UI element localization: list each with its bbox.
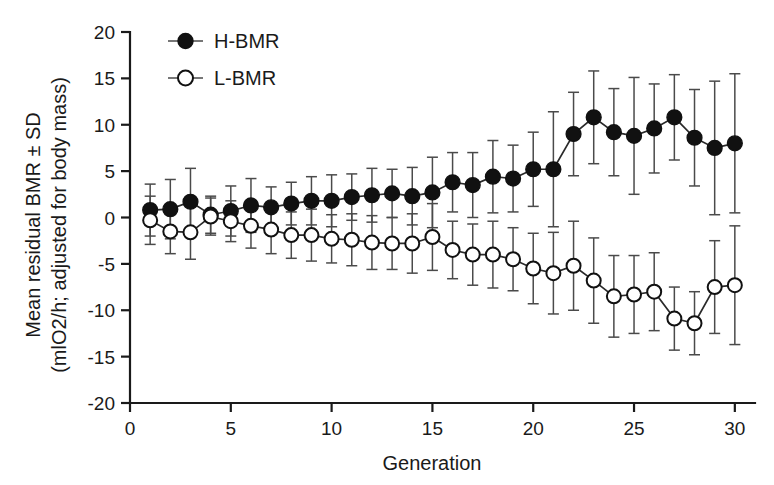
y-tick-label: -20 — [88, 393, 115, 414]
data-point-h-bmr — [667, 110, 682, 125]
data-point-l-bmr — [446, 243, 460, 257]
x-tick-label: 15 — [422, 418, 443, 439]
legend-entry-h-bmr: H-BMR — [168, 30, 280, 52]
y-tick-label: 10 — [94, 115, 115, 136]
data-point-l-bmr — [365, 236, 379, 250]
data-point-l-bmr — [688, 316, 702, 330]
data-point-l-bmr — [183, 225, 197, 239]
y-axis-title-line2: (mlO2/h; adjusted for body mass) — [48, 77, 70, 373]
y-tick-label: -10 — [88, 300, 115, 321]
data-point-h-bmr — [264, 200, 279, 215]
data-point-h-bmr — [606, 125, 621, 140]
data-point-l-bmr — [466, 248, 480, 262]
x-tick-label: 30 — [724, 418, 745, 439]
data-point-l-bmr — [385, 236, 399, 250]
data-point-l-bmr — [204, 210, 218, 224]
data-point-l-bmr — [163, 224, 177, 238]
data-point-h-bmr — [445, 175, 460, 190]
data-point-h-bmr — [183, 194, 198, 209]
data-point-l-bmr — [264, 223, 278, 237]
data-point-l-bmr — [244, 219, 258, 233]
data-point-h-bmr — [707, 141, 722, 156]
data-point-h-bmr — [304, 193, 319, 208]
data-point-l-bmr — [405, 236, 419, 250]
legend-label-h-bmr: H-BMR — [214, 30, 280, 52]
data-point-h-bmr — [344, 190, 359, 205]
y-tick-label: -5 — [98, 254, 115, 275]
legend-entry-l-bmr: L-BMR — [168, 67, 276, 89]
figure-panel: Mean residual BMR ± SD (mlO2/h; adjusted… — [0, 0, 774, 485]
data-point-h-bmr — [627, 128, 642, 143]
legend-marker-h-bmr — [178, 34, 193, 49]
data-point-l-bmr — [587, 274, 601, 288]
legend-label-l-bmr: L-BMR — [214, 67, 276, 89]
data-point-h-bmr — [546, 162, 561, 177]
data-point-h-bmr — [486, 169, 501, 184]
data-point-h-bmr — [244, 198, 259, 213]
data-point-h-bmr — [506, 171, 521, 186]
y-tick-label: 15 — [94, 68, 115, 89]
legend-marker-l-bmr — [178, 71, 193, 86]
data-point-l-bmr — [607, 289, 621, 303]
data-point-l-bmr — [546, 266, 560, 280]
data-point-l-bmr — [728, 278, 742, 292]
y-axis-title-line1: Mean residual BMR ± SD — [22, 112, 44, 338]
data-point-h-bmr — [647, 121, 662, 136]
data-point-l-bmr — [506, 252, 520, 266]
data-point-h-bmr — [385, 186, 400, 201]
x-axis-title: Generation — [383, 452, 482, 474]
data-point-l-bmr — [345, 233, 359, 247]
data-point-h-bmr — [284, 196, 299, 211]
data-point-l-bmr — [526, 262, 540, 276]
data-point-l-bmr — [647, 285, 661, 299]
data-point-h-bmr — [727, 136, 742, 151]
y-tick-label: 0 — [104, 208, 115, 229]
data-point-l-bmr — [567, 259, 581, 273]
data-point-l-bmr — [284, 228, 298, 242]
data-point-l-bmr — [486, 248, 500, 262]
data-point-l-bmr — [667, 312, 681, 326]
y-tick-label: 20 — [94, 22, 115, 43]
x-tick-label: 10 — [321, 418, 342, 439]
data-point-l-bmr — [708, 280, 722, 294]
y-tick-label: 5 — [104, 161, 115, 182]
data-point-h-bmr — [586, 110, 601, 125]
data-point-l-bmr — [224, 214, 238, 228]
bmr-generation-line-chart: Mean residual BMR ± SD (mlO2/h; adjusted… — [0, 0, 774, 485]
x-tick-label: 20 — [523, 418, 544, 439]
data-point-h-bmr — [465, 178, 480, 193]
data-point-h-bmr — [324, 193, 339, 208]
data-point-l-bmr — [425, 230, 439, 244]
x-tick-label: 5 — [226, 418, 237, 439]
data-point-h-bmr — [526, 162, 541, 177]
data-point-h-bmr — [566, 127, 581, 142]
data-point-h-bmr — [687, 130, 702, 145]
data-point-l-bmr — [627, 287, 641, 301]
x-tick-label: 0 — [125, 418, 136, 439]
data-point-h-bmr — [405, 189, 420, 204]
data-point-h-bmr — [425, 185, 440, 200]
data-point-l-bmr — [143, 213, 157, 227]
data-point-l-bmr — [304, 228, 318, 242]
data-point-h-bmr — [365, 188, 380, 203]
x-tick-label: 25 — [623, 418, 644, 439]
data-point-l-bmr — [325, 232, 339, 246]
y-tick-label: -15 — [88, 347, 115, 368]
data-point-h-bmr — [163, 202, 178, 217]
